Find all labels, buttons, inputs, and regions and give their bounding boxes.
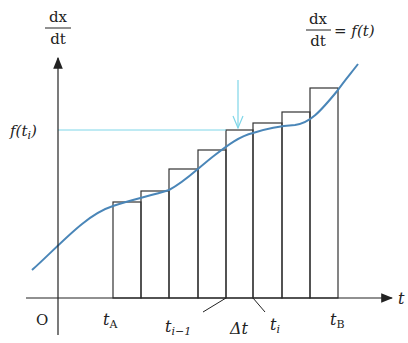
rect-6 [253, 123, 282, 298]
y-axis-label-denominator: dt [50, 30, 66, 48]
rect-7 [282, 112, 310, 298]
y-axis-label-numerator: dx [49, 8, 68, 26]
rect-4 [198, 150, 226, 298]
tick-label-tA: tA [103, 310, 118, 331]
tick-label-ti: ti [270, 315, 280, 336]
x-axis-label: t [398, 289, 405, 308]
rect-2 [141, 191, 169, 298]
level-label: f(ti) [9, 122, 37, 142]
tick-label-tB: tB [330, 310, 345, 331]
function-label-denominator: dt [310, 32, 326, 50]
rectangles [113, 88, 338, 298]
function-curve [32, 64, 358, 270]
down-arrow-icon [233, 80, 243, 128]
leader-tim1 [203, 298, 226, 312]
rect-1 [113, 202, 141, 298]
rect-8 [310, 88, 338, 298]
rect-5 [226, 130, 253, 298]
function-label-rhs: = f(t) [334, 22, 375, 40]
origin-label: O [36, 311, 48, 329]
tick-label-ti-minus-1: ti−1 [165, 317, 191, 338]
leader-ti [253, 298, 265, 312]
riemann-sum-diagram: dx dt dx dt = f(t) f(ti) t O tA ti−1 Δt … [0, 0, 408, 343]
function-label-numerator: dx [309, 10, 328, 28]
tick-label-delta-t: Δt [229, 319, 249, 338]
